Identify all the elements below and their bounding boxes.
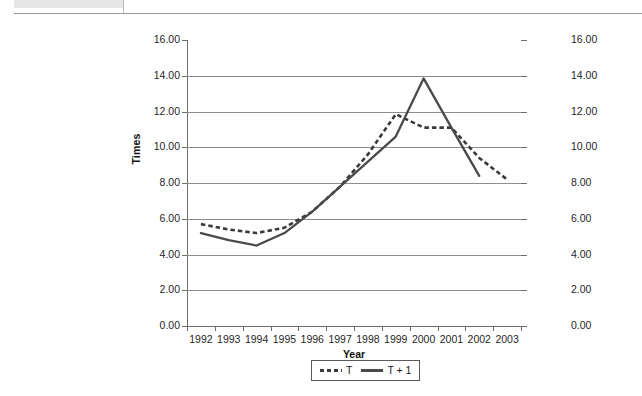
y-axis-tick-mark-right	[521, 112, 527, 113]
x-axis-tick-mark	[271, 326, 272, 331]
x-axis-tick-mark	[493, 326, 494, 331]
y-axis-tick-mark-right	[521, 183, 527, 184]
x-axis-tick-mark	[465, 326, 466, 331]
y-axis-tick-label-right: 14.00	[571, 70, 617, 81]
legend-item: T	[320, 364, 352, 376]
y-axis-tick-label-left: 8.00	[134, 177, 180, 188]
y-axis-tick-mark-right	[521, 76, 527, 77]
y-axis-tick-mark-right	[521, 40, 527, 41]
y-axis-tick-label-right: 8.00	[571, 177, 617, 188]
y-axis-tick-mark-right	[521, 147, 527, 148]
legend-label: T + 1	[387, 364, 411, 376]
x-axis-tick-mark	[438, 326, 439, 331]
y-axis-tick-label-left: 16.00	[134, 34, 180, 45]
x-axis-tick-mark	[187, 326, 188, 331]
x-axis-tick-mark	[354, 326, 355, 331]
y-axis-tick-mark-left	[182, 76, 187, 77]
y-axis-tick-label-left: 0.00	[134, 320, 180, 331]
line-chart: Times 0.002.004.006.008.0010.0012.0014.0…	[0, 0, 642, 396]
x-axis-tick-mark	[382, 326, 383, 331]
y-axis-tick-label-left: 12.00	[134, 106, 180, 117]
y-axis-tick-label-right: 12.00	[571, 106, 617, 117]
x-axis-tick-mark	[298, 326, 299, 331]
y-axis-tick-label-right: 4.00	[571, 249, 617, 260]
y-axis-tick-mark-left	[182, 183, 187, 184]
y-axis-tick-mark-right	[521, 326, 527, 327]
y-axis-tick-label-right: 2.00	[571, 284, 617, 295]
x-axis-tick-mark	[243, 326, 244, 331]
y-axis-tick-mark-left	[182, 112, 187, 113]
series-layer	[187, 40, 521, 326]
y-axis-tick-mark-left	[182, 40, 187, 41]
chart-legend: TT + 1	[311, 360, 420, 381]
y-axis-tick-label-right: 10.00	[571, 141, 617, 152]
y-axis-tick-label-right: 6.00	[571, 213, 617, 224]
y-axis-tick-label-left: 2.00	[134, 284, 180, 295]
y-axis-tick-label-left: 6.00	[134, 213, 180, 224]
solid-line-icon	[361, 369, 383, 372]
y-axis-tick-mark-left	[182, 147, 187, 148]
y-axis-tick-label-left: 14.00	[134, 70, 180, 81]
x-axis-tick-mark	[215, 326, 216, 331]
y-axis-tick-mark-left	[182, 255, 187, 256]
x-axis-tick-mark	[410, 326, 411, 331]
y-axis-tick-mark-left	[182, 219, 187, 220]
y-axis-tick-label-right: 0.00	[571, 320, 617, 331]
x-axis-tick-label: 2003	[487, 333, 527, 345]
y-axis-tick-mark-left	[182, 326, 187, 327]
y-axis-tick-label-left: 4.00	[134, 249, 180, 260]
y-axis-tick-mark-left	[182, 290, 187, 291]
y-axis-tick-mark-right	[521, 219, 527, 220]
series-line-t-plus-1	[201, 78, 479, 245]
legend-item: T + 1	[361, 364, 411, 376]
y-axis-tick-mark-right	[521, 290, 527, 291]
y-axis-tick-label-left: 10.00	[134, 141, 180, 152]
x-axis-title: Year	[187, 348, 521, 360]
y-axis-tick-label-right: 16.00	[571, 34, 617, 45]
x-axis-tick-mark	[326, 326, 327, 331]
legend-label: T	[346, 364, 352, 376]
y-axis-tick-mark-right	[521, 255, 527, 256]
dashed-line-icon	[320, 369, 342, 372]
plot-area	[187, 40, 521, 326]
